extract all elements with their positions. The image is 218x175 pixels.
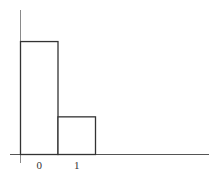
x-tick-labels: 01 — [37, 159, 80, 171]
bar-1 — [58, 117, 96, 155]
x-tick-label: 1 — [74, 159, 80, 171]
bar-0 — [21, 42, 59, 155]
histogram-chart: 01 — [0, 0, 218, 175]
bars-group — [21, 42, 96, 155]
x-tick-label: 0 — [37, 159, 43, 171]
